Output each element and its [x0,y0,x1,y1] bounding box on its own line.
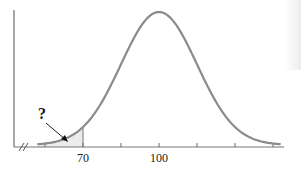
tick-label-100: 100 [150,151,168,165]
normal-curve-chart: 70 100 ? [0,0,301,171]
tick-label-70: 70 [77,151,89,165]
question-mark-label: ? [38,105,46,122]
annotation-arrow-icon [46,123,68,142]
normal-curve [37,12,280,144]
